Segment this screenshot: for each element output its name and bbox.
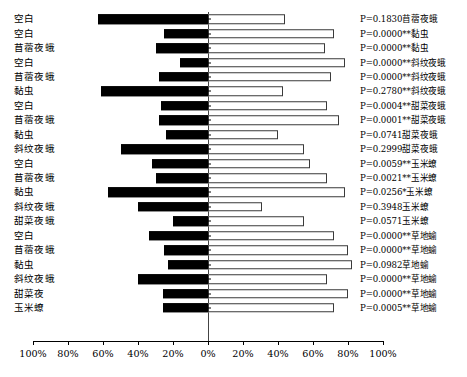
bar-left	[138, 202, 208, 212]
p-value-annotation: P=0.0741甜菜夜蛾	[360, 130, 438, 139]
axis-tick	[138, 341, 139, 345]
bar-left	[163, 289, 209, 299]
chart-row: 黏虫P=0.0982草地蝓	[0, 257, 467, 271]
axis-tick-label: 80%	[337, 348, 358, 359]
p-value-annotation: P=0.0004**甜菜夜蛾	[360, 101, 446, 110]
bar-left	[164, 29, 208, 39]
bar-right	[208, 116, 339, 126]
bar-left	[156, 43, 209, 53]
category-label: 空白	[14, 58, 34, 68]
row-plot-area	[33, 41, 383, 55]
chart-row: 苜蓿夜蛾P=0.0021**玉米蟟	[0, 171, 467, 185]
axis-tick-label: 60%	[302, 348, 323, 359]
axis-tick	[383, 341, 384, 345]
p-value-annotation: P=0.2999甜菜夜蛾	[360, 145, 438, 154]
bar-right	[208, 144, 304, 154]
row-plot-area	[33, 84, 383, 98]
row-plot-area	[33, 286, 383, 300]
chart-row: 空白P=0.0000**黏虫	[0, 26, 467, 40]
row-plot-area	[33, 156, 383, 170]
row-tick-marker	[208, 178, 211, 179]
row-plot-area	[33, 243, 383, 257]
axis-tick-label: 60%	[92, 348, 113, 359]
axis-tick	[173, 341, 174, 345]
row-tick-marker	[208, 250, 211, 251]
bar-right	[208, 43, 325, 53]
p-value-annotation: P=0.0000**草地蝓	[360, 231, 437, 240]
category-label: 黏虫	[14, 130, 34, 140]
category-label: 空白	[14, 29, 34, 39]
bar-right	[208, 188, 345, 198]
bar-right	[208, 217, 304, 227]
chart-row: 斜纹夜蛾P=0.3948玉米蟟	[0, 200, 467, 214]
row-plot-area	[33, 257, 383, 271]
bar-right	[208, 289, 348, 299]
p-value-annotation: P=0.0021**玉米蟟	[360, 174, 437, 183]
row-tick-marker	[208, 48, 211, 49]
row-tick-marker	[208, 264, 211, 265]
p-value-annotation: P=0.0571玉米蟟	[360, 217, 429, 226]
p-value-annotation: P=0.0059**玉米蟟	[360, 159, 437, 168]
axis-tick	[208, 341, 209, 345]
chart-row: 空白P=0.0000**斜纹夜蛾	[0, 55, 467, 69]
p-value-annotation: P=0.0000**斜纹夜蛾	[360, 58, 446, 67]
row-plot-area	[33, 26, 383, 40]
row-tick-marker	[208, 91, 211, 92]
bar-right	[208, 274, 327, 284]
axis-tick	[33, 341, 34, 345]
axis-tick	[313, 341, 314, 345]
row-tick-marker	[208, 235, 211, 236]
row-tick-marker	[208, 19, 211, 20]
bar-left	[166, 130, 208, 140]
bar-right	[208, 130, 278, 140]
p-value-annotation: P=0.0000**草地蝓	[360, 275, 437, 284]
axis-tick-label: 20%	[162, 348, 183, 359]
chart-row: 甜菜夜蛾P=0.0571玉米蟟	[0, 214, 467, 228]
row-plot-area	[33, 214, 383, 228]
row-tick-marker	[208, 149, 211, 150]
row-plot-area	[33, 272, 383, 286]
chart-row: 甜菜夜P=0.0000**草地蝓	[0, 286, 467, 300]
bar-left	[161, 101, 208, 111]
p-value-annotation: P=0.1830苜蓿夜蛾	[360, 15, 438, 24]
chart-row: 玉米蟟P=0.0005**草地蝓	[0, 301, 467, 315]
row-plot-area	[33, 200, 383, 214]
bar-left	[156, 173, 209, 183]
p-value-annotation: P=0.0000**草地蝓	[360, 246, 437, 255]
axis-tick-label: 100%	[19, 348, 46, 359]
row-plot-area	[33, 142, 383, 156]
bar-right	[208, 14, 285, 24]
row-plot-area	[33, 185, 383, 199]
p-value-annotation: P=0.0000**斜纹夜蛾	[360, 72, 446, 81]
bar-right	[208, 173, 327, 183]
bar-left	[159, 116, 208, 126]
bar-left	[108, 188, 208, 198]
bar-left	[163, 303, 209, 313]
axis-tick-label: 20%	[232, 348, 253, 359]
chart-row: 黏虫P=0.0256*玉米蟟	[0, 185, 467, 199]
p-value-annotation: P=0.0000**黏虫	[360, 29, 428, 38]
axis-tick	[68, 341, 69, 345]
bar-right	[208, 87, 283, 97]
bar-right	[208, 72, 331, 82]
row-tick-marker	[208, 221, 211, 222]
chart-rows: 空白P=0.1830苜蓿夜蛾空白P=0.0000**黏虫苜蓿夜蛾P=0.0000…	[0, 12, 467, 315]
p-value-annotation: P=0.0001**甜菜夜蛾	[360, 116, 446, 125]
row-tick-marker	[208, 206, 211, 207]
row-plot-area	[33, 70, 383, 84]
axis-tick	[103, 341, 104, 345]
bar-left	[159, 72, 208, 82]
diverging-bar-chart: 空白P=0.1830苜蓿夜蛾空白P=0.0000**黏虫苜蓿夜蛾P=0.0000…	[0, 0, 467, 377]
chart-row: 空白P=0.0004**甜菜夜蛾	[0, 99, 467, 113]
bar-left	[101, 87, 208, 97]
p-value-annotation: P=0.0256*玉米蟟	[360, 188, 433, 197]
row-tick-marker	[208, 105, 211, 106]
category-label: 黏虫	[14, 86, 34, 96]
category-label: 空白	[14, 159, 34, 169]
bar-left	[152, 159, 208, 169]
row-plot-area	[33, 301, 383, 315]
chart-row: 空白P=0.1830苜蓿夜蛾	[0, 12, 467, 26]
bar-right	[208, 202, 262, 212]
row-tick-marker	[208, 163, 211, 164]
row-tick-marker	[208, 192, 211, 193]
